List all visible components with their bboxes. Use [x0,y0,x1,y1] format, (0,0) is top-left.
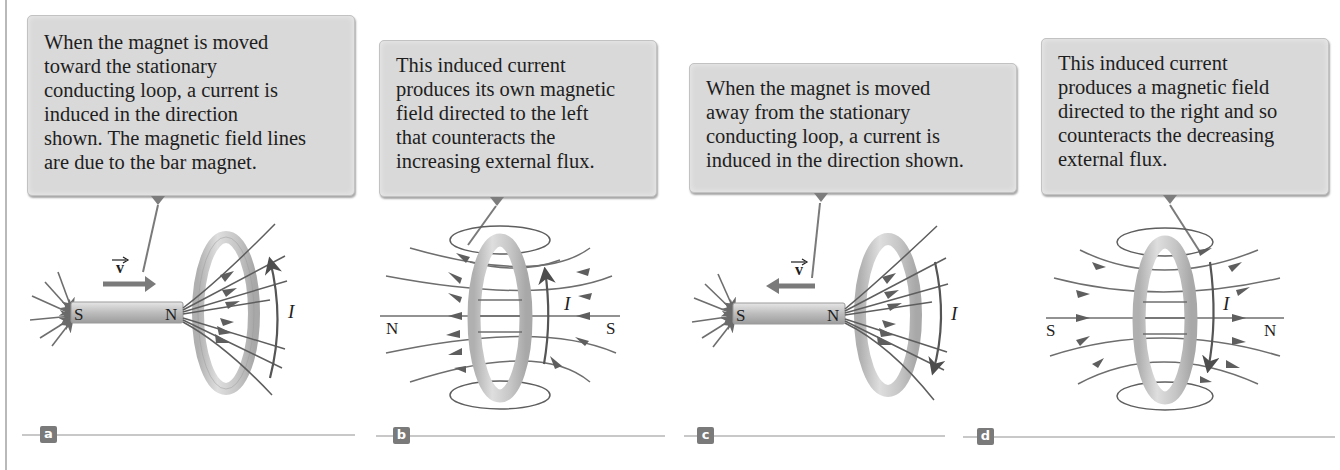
magnet-s-pole-label: S [74,305,83,324]
conducting-loop [474,240,526,396]
panel-c-badge: c [697,427,714,444]
velocity-label: v [116,259,124,276]
callout-line: are due to the bar magnet. [44,150,340,174]
n-pole-field-lines [845,226,948,400]
callout-line: produces a magnetic field [1058,75,1314,99]
magnet-s-pole-label: S [736,306,745,325]
panel-a-diagram: v S N I [30,205,296,395]
panel-d-diagram: I S N [1046,205,1284,410]
current-label: I [287,301,296,322]
callout-line: field directed to the left [396,101,642,125]
current-label: I [1222,293,1231,314]
callout-line: produces its own magnetic [396,77,642,101]
velocity-arrowhead [766,278,779,294]
callout-line: away from the stationary [706,100,1002,124]
callout-line: counteracts the decreasing [1058,123,1314,147]
callout-c: When the magnet is moved away from the s… [689,63,1017,193]
callout-d: This induced current produces a magnetic… [1041,38,1329,195]
panel-b-diagram: I N S [380,206,620,409]
callout-d-pointer [1163,195,1177,204]
callout-line: increasing external flux. [396,149,642,173]
left-pole-label: N [386,319,398,338]
panel-c-diagram: v S N I [692,203,959,400]
callout-line: This induced current [396,53,642,77]
callout-line: induced in the direction [44,102,340,126]
callout-line: external flux. [1058,147,1314,171]
callout-line: that counteracts the [396,125,642,149]
current-label: I [563,293,572,314]
magnet-n-pole-label: N [165,305,177,324]
velocity-arrowhead [145,276,156,292]
callout-line: induced in the direction shown. [706,148,1002,172]
panel-a-badge: a [40,426,57,443]
callout-a-leader [143,205,158,272]
current-label: I [950,303,959,324]
conducting-loop [1139,242,1191,398]
panel-c-baseline [684,435,945,437]
callout-c-pointer [814,193,828,202]
callout-b: This induced current produces its own ma… [379,40,657,197]
callout-line: This induced current [1058,51,1314,75]
s-pole-field-lines [692,274,734,347]
magnet-n-pole-label: N [827,306,839,325]
callout-b-pointer [490,197,504,206]
callout-a: When the magnet is moved toward the stat… [27,15,355,196]
callout-line: When the magnet is moved [44,30,340,54]
callout-line: toward the stationary [44,54,340,78]
callout-line: directed to the right and so [1058,99,1314,123]
panel-b-baseline [376,435,665,437]
callout-line: conducting loop, a current is [44,78,340,102]
callout-line: shown. The magnetic field lines [44,126,340,150]
panel-d-badge: d [977,428,994,445]
s-pole-field-lines [30,272,72,346]
current-arrow-down [933,262,941,372]
panel-a-baseline [22,434,355,436]
velocity-label: v [795,261,803,278]
right-pole-label: S [606,319,615,338]
panel-d-baseline [963,436,1335,438]
callout-line: conducting loop, a current is [706,124,1002,148]
right-pole-label: N [1264,321,1276,340]
current-arrow-up [544,270,548,364]
callout-line: When the magnet is moved [706,76,1002,100]
left-pole-label: S [1046,321,1055,340]
current-arrow-down [1208,262,1214,370]
conducting-loop [860,239,916,391]
callout-c-leader [812,203,820,278]
current-arrow-up [270,260,278,378]
panel-b-badge: b [393,427,410,444]
callout-a-pointer [151,196,165,205]
